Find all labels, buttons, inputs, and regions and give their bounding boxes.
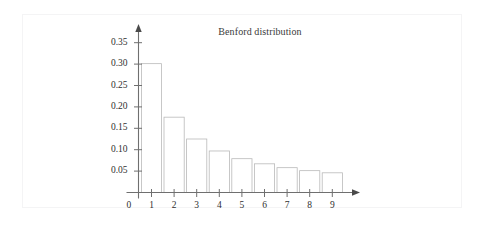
bar-1 — [141, 64, 161, 193]
y-axis-arrowhead — [135, 24, 141, 32]
benford-distribution-chart: Benford distribution 0.050.100.150.200.2… — [0, 0, 485, 233]
x-axis-arrowhead — [352, 189, 360, 195]
bars-group — [141, 64, 342, 193]
bar-4 — [209, 151, 229, 193]
bar-2 — [164, 117, 184, 192]
bar-3 — [187, 139, 207, 193]
plot-area — [0, 0, 485, 233]
bar-7 — [277, 168, 297, 193]
bar-6 — [254, 164, 274, 193]
bar-5 — [232, 159, 252, 193]
